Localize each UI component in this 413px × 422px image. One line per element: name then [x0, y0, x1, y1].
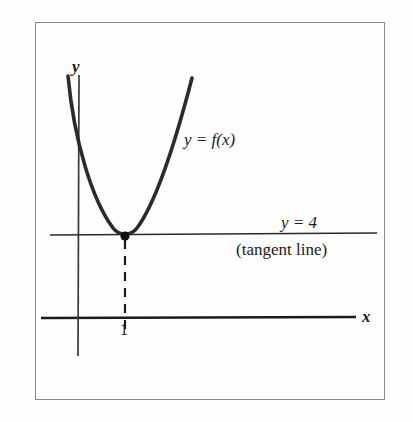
y-axis-label: y — [72, 58, 80, 75]
x-axis-tick-label-1: 1 — [120, 322, 128, 338]
tangent-line-note: (tangent line) — [236, 241, 327, 258]
curve-equation-label: y = f(x) — [184, 131, 235, 148]
tangent-equation-text: y = 4 — [281, 213, 317, 232]
x-axis-line — [41, 317, 356, 318]
tangent-line — [50, 233, 377, 235]
tangent-equation-label: y = 4 — [281, 214, 317, 231]
curve-equation-text: y = f(x) — [184, 130, 235, 149]
parabola-curve — [68, 76, 192, 234]
tangency-point-marker — [120, 231, 129, 240]
plot-canvas — [0, 0, 413, 422]
y-axis-line — [78, 75, 79, 356]
figure-container: y x y = f(x) y = 4 (tangent line) 1 — [0, 0, 413, 422]
x-axis-label: x — [362, 308, 371, 325]
